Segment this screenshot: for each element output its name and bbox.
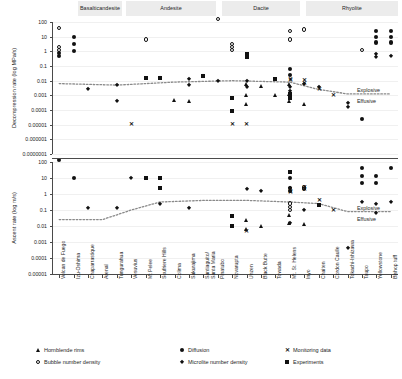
- x-axis-tick-label: Mt Pelee: [148, 259, 154, 279]
- y-axis-tick-label: 100: [0, 159, 47, 165]
- x-axis-tick-label: Taupo: [364, 265, 370, 279]
- data-point-diamond: [259, 189, 264, 194]
- legend-marker-ex: ✕: [285, 347, 290, 353]
- data-point-square: [158, 186, 162, 190]
- trend-line-ascent: [0, 0, 402, 379]
- data-point-circle: [360, 166, 364, 170]
- x-axis-tick-label: Towada: [277, 261, 283, 279]
- x-axis-tick-label: Tungurahua: [119, 252, 125, 279]
- x-axis-tick-label: Chaiten: [321, 261, 327, 279]
- data-point-diamond: [374, 211, 379, 216]
- region-label-effusive: Effusive: [357, 216, 376, 222]
- x-axis-tick-label: Izu-Oshima: [76, 253, 82, 279]
- legend-label: Microlite number density: [188, 359, 248, 365]
- data-point-ex: ✕: [244, 228, 249, 234]
- x-axis-tick-label: Mt. St. Helens: [292, 247, 298, 279]
- y-axis-title: Ascent rate (log m/s): [11, 162, 17, 274]
- legend-marker-square: [285, 360, 289, 364]
- x-axis-tick-label: Black Butte: [263, 253, 269, 279]
- data-point-ex: ✕: [331, 207, 336, 213]
- x-axis-tick-label: Unzen: [249, 264, 255, 279]
- data-point-square: [158, 176, 162, 180]
- x-axis-tick-label: Chaparrastique: [90, 244, 96, 279]
- figure-root: BasalticandesiteAndesiteDaciteRhyolite 1…: [0, 0, 402, 379]
- x-axis-tick-label: Cordon Caulle: [335, 246, 341, 279]
- x-axis-tick-label: Yellowstone: [378, 252, 384, 279]
- legend-label: Bubble number density: [44, 359, 100, 365]
- data-point-diamond: [389, 200, 394, 205]
- x-axis-tick-label: Bishop tuff: [393, 255, 399, 279]
- data-point-diamond: [158, 201, 163, 206]
- x-axis-tick-label: Vesuvius: [133, 259, 139, 279]
- x-axis-tick-label: Novarupta: [234, 255, 240, 279]
- x-axis-tick-label: Tokachi-Ishizawa: [350, 240, 356, 279]
- data-point-diamond: [244, 187, 249, 192]
- x-axis-tick-label: Soufriere Hills: [162, 247, 168, 279]
- y-axis-tick-label: 10: [0, 175, 47, 181]
- data-point-tri: [287, 213, 291, 217]
- x-axis-tick-label: Arenal: [104, 264, 110, 279]
- x-axis-tick-label: Sakurajima: [191, 254, 197, 279]
- data-point-circle: [374, 181, 378, 185]
- data-point-circle: [389, 166, 393, 170]
- y-axis-tick-label: 1: [0, 191, 47, 197]
- data-point-diamond: [129, 176, 134, 181]
- y-axis-line: [52, 162, 53, 274]
- y-axis-tick-label: 0.0001: [0, 255, 47, 261]
- data-point-square: [230, 224, 234, 228]
- y-axis-tick-label: 0.01: [0, 223, 47, 229]
- data-point-square: [230, 214, 234, 218]
- y-axis-tick-label: 0.001: [0, 239, 47, 245]
- panel-ascent: 1001010.10.010.0010.00010.00001Ascent ra…: [0, 0, 402, 379]
- gridline: [52, 210, 398, 211]
- data-point-diamond: [360, 200, 365, 205]
- legend-label: Experiments: [293, 359, 324, 365]
- x-axis-tick-label: Colima: [177, 263, 183, 279]
- data-point-tri: [259, 224, 263, 228]
- data-point-diamond: [302, 208, 307, 213]
- data-point-square: [317, 203, 321, 207]
- x-axis-tick-label: Inyo: [306, 269, 312, 279]
- data-point-tri: [302, 222, 306, 226]
- data-point-tri: [244, 218, 248, 222]
- data-point-circle: [360, 181, 364, 185]
- gridline: [52, 242, 398, 243]
- data-point-circle: [72, 176, 76, 180]
- legend-label: Diffusion: [188, 347, 209, 353]
- data-point-square: [288, 170, 292, 174]
- gridline: [52, 178, 398, 179]
- legend-marker-tri: [36, 348, 40, 352]
- panel-separator: [52, 158, 398, 159]
- legend-label: Monitoring data: [293, 347, 331, 353]
- y-axis-tick-label: 0.00001: [0, 271, 47, 277]
- gridline: [52, 194, 398, 195]
- data-point-square: [144, 176, 148, 180]
- legend-label: Hornblende rims: [44, 347, 84, 353]
- data-point-ocircle: [288, 208, 292, 212]
- y-axis-tick-label: 0.1: [0, 207, 47, 213]
- x-axis-tick-label: Santa Maria: [211, 252, 217, 279]
- x-axis-tick-label: Pinatubo: [220, 259, 226, 279]
- gridline: [52, 226, 398, 227]
- gridline: [52, 162, 398, 163]
- x-axis-tick-label: Volcan de Fuego: [61, 241, 67, 279]
- data-point-circle: [288, 176, 292, 180]
